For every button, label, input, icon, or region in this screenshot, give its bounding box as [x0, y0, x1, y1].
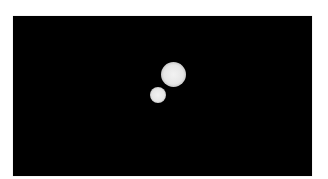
small-bright-blob [150, 87, 166, 103]
image-frame [13, 16, 312, 176]
large-bright-blob [161, 62, 186, 87]
